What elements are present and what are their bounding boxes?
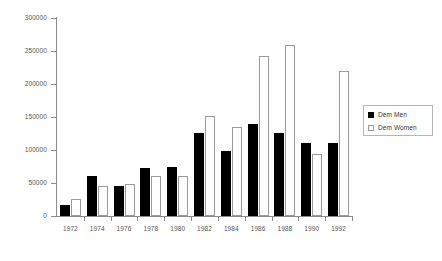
bar-1980-dem-men <box>167 167 177 216</box>
legend-swatch-icon-dem-men <box>368 112 374 118</box>
x-tick-label: 1992 <box>319 226 359 233</box>
y-tick-label: 0 <box>0 213 47 220</box>
bar-1988-dem-women <box>285 45 295 216</box>
bar-1986-dem-men <box>248 124 258 216</box>
bar-1990-dem-men <box>301 143 311 216</box>
x-tick-mark <box>191 217 192 221</box>
x-tick-mark <box>352 217 353 221</box>
y-tick-label: 200000 <box>0 81 47 88</box>
bar-1988-dem-men <box>274 133 284 216</box>
chart-legend: Dem Men Dem Women <box>363 105 433 136</box>
legend-label-dem-men: Dem Men <box>378 112 407 119</box>
y-tick-label: 50000 <box>0 180 47 187</box>
bar-1978-dem-women <box>151 176 161 216</box>
bar-1982-dem-women <box>205 116 215 216</box>
y-tick-label: 250000 <box>0 48 47 55</box>
plot-area <box>57 18 352 216</box>
x-tick-mark <box>84 217 85 221</box>
legend-swatch-icon-dem-women <box>368 125 374 131</box>
bar-1992-dem-women <box>339 71 349 216</box>
bar-chart: 300000250000200000150000100000500000 197… <box>0 0 442 261</box>
y-tick-label: 150000 <box>0 114 47 121</box>
bar-1982-dem-men <box>194 133 204 216</box>
bar-1972-dem-women <box>71 199 81 216</box>
x-axis-line <box>56 216 353 217</box>
x-tick-mark <box>218 217 219 221</box>
y-tick-label: 100000 <box>0 147 47 154</box>
legend-entry-dem-women: Dem Women <box>368 123 417 133</box>
bar-1984-dem-men <box>221 151 231 216</box>
bar-1992-dem-men <box>328 143 338 216</box>
x-tick-mark <box>325 217 326 221</box>
bar-1984-dem-women <box>232 127 242 216</box>
bar-1974-dem-women <box>98 186 108 216</box>
bar-1976-dem-men <box>114 186 124 216</box>
x-tick-mark <box>272 217 273 221</box>
legend-label-dem-women: Dem Women <box>378 125 417 132</box>
bar-1980-dem-women <box>178 176 188 216</box>
bar-1990-dem-women <box>312 154 322 216</box>
x-tick-mark <box>298 217 299 221</box>
bar-1978-dem-men <box>140 168 150 216</box>
y-tick-label: 300000 <box>0 15 47 22</box>
legend-entry-dem-men: Dem Men <box>368 110 407 120</box>
bar-1976-dem-women <box>125 184 135 216</box>
x-tick-mark <box>164 217 165 221</box>
x-tick-mark <box>245 217 246 221</box>
x-tick-mark <box>111 217 112 221</box>
x-tick-mark <box>137 217 138 221</box>
bar-1986-dem-women <box>259 56 269 216</box>
bar-1972-dem-men <box>60 205 70 216</box>
bar-1974-dem-men <box>87 176 97 216</box>
y-tick-mark <box>51 216 57 217</box>
